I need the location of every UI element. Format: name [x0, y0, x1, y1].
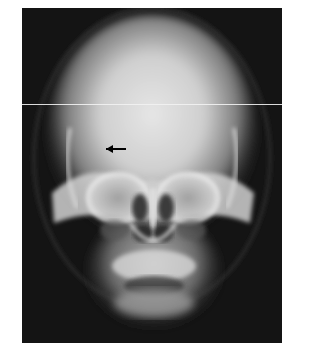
scan-artifact-line [22, 104, 282, 105]
skull-radiograph [22, 8, 282, 343]
xray-image [22, 8, 282, 343]
